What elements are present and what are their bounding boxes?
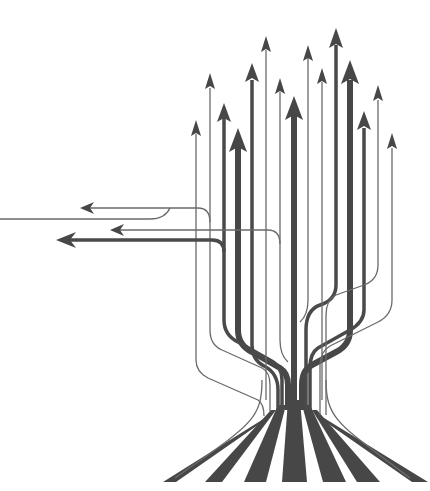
illustration-svg	[0, 0, 430, 491]
tree-of-arrows-illustration	[0, 0, 430, 491]
